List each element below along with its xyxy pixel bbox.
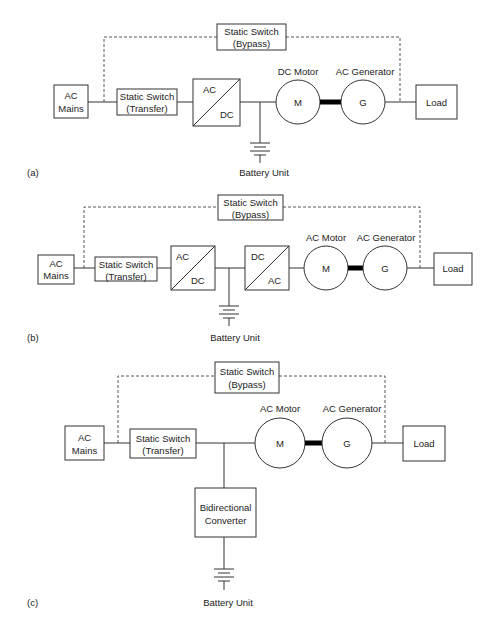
- load-label: Load: [426, 97, 447, 108]
- rectifier-bottom: DC: [191, 275, 205, 286]
- diagram-a: Static Switch (Bypass) AC Mains Static S…: [27, 24, 457, 178]
- transfer-label-1: Static Switch: [120, 91, 174, 102]
- bypass-label-1: Static Switch: [220, 366, 274, 377]
- ac-mains-label-2: Mains: [72, 445, 98, 456]
- transfer-label-2: (Transfer): [126, 103, 167, 114]
- panel-label: (c): [27, 597, 38, 608]
- panel-label: (b): [27, 332, 39, 343]
- transfer-label-2: (Transfer): [105, 271, 146, 282]
- battery-label: Battery Unit: [239, 167, 289, 178]
- bypass-label-1: Static Switch: [224, 26, 278, 37]
- converter-label-2: Converter: [205, 515, 247, 526]
- rectifier-bottom: DC: [220, 109, 234, 120]
- motor-title: AC Motor: [306, 232, 346, 243]
- ac-mains-label-2: Mains: [58, 103, 84, 114]
- load-label: Load: [442, 263, 463, 274]
- motor-title: DC Motor: [278, 66, 319, 77]
- ac-mains-label-1: AC: [64, 90, 77, 101]
- transfer-label-1: Static Switch: [136, 433, 190, 444]
- rectifier-top: AC: [203, 84, 216, 95]
- inverter-bottom: AC: [268, 275, 281, 286]
- battery-label: Battery Unit: [210, 332, 260, 343]
- bypass-label-1: Static Switch: [223, 197, 277, 208]
- generator-title: AC Generator: [336, 66, 395, 77]
- battery-label: Battery Unit: [203, 597, 253, 608]
- panel-label: (a): [27, 167, 39, 178]
- diagram-c: Static Switch (Bypass) AC Mains Static S…: [27, 362, 445, 608]
- motor-symbol: M: [294, 97, 302, 108]
- generator-title: AC Generator: [323, 403, 382, 414]
- transfer-label-2: (Transfer): [142, 445, 183, 456]
- motor-symbol: M: [276, 438, 284, 449]
- generator-symbol: G: [359, 97, 366, 108]
- generator-title: AC Generator: [357, 232, 416, 243]
- inverter-top: DC: [251, 251, 265, 262]
- generator-symbol: G: [343, 438, 350, 449]
- bypass-label-2: (Bypass): [228, 379, 265, 390]
- motor-symbol: M: [322, 263, 330, 274]
- transfer-label-1: Static Switch: [99, 259, 153, 270]
- ups-diagrams: Static Switch (Bypass) AC Mains Static S…: [0, 0, 494, 633]
- ac-mains-label-2: Mains: [43, 270, 69, 281]
- diagram-b: Static Switch (Bypass) AC Mains Static S…: [27, 195, 472, 343]
- rectifier-top: AC: [176, 251, 189, 262]
- converter-label-1: Bidirectional: [200, 502, 252, 513]
- load-label: Load: [413, 438, 434, 449]
- generator-symbol: G: [381, 263, 388, 274]
- ac-mains-label-1: AC: [78, 432, 91, 443]
- bypass-label-2: (Bypass): [233, 38, 270, 49]
- ac-mains-label-1: AC: [49, 258, 62, 269]
- motor-title: AC Motor: [260, 403, 300, 414]
- bypass-label-2: (Bypass): [232, 209, 269, 220]
